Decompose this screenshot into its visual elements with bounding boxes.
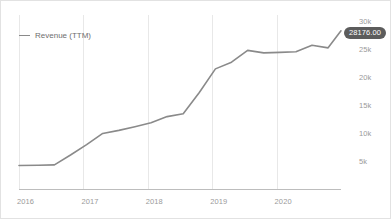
y-tick-20k: 20k xyxy=(359,73,371,82)
value-badge-tooltip: 28176.00 xyxy=(344,27,386,39)
x-tick-2018: 2018 xyxy=(146,197,163,206)
series-lines xyxy=(19,31,341,166)
legend-item-label: Revenue (TTM) xyxy=(35,31,91,40)
y-tick-25k: 25k xyxy=(359,45,371,54)
x-tick-2020: 2020 xyxy=(275,197,292,206)
y-tick-5k: 5k xyxy=(359,157,367,166)
revenue-chart-card: 20162017201820192020 5k10k15k20k25k30k R… xyxy=(0,0,391,219)
series-line-revenue[interactable] xyxy=(19,31,341,166)
y-tick-15k: 15k xyxy=(359,101,371,110)
x-tick-2017: 2017 xyxy=(81,197,98,206)
y-tick-10k: 10k xyxy=(359,129,371,138)
chart-legend[interactable]: Revenue (TTM) xyxy=(19,31,91,40)
value-badge-text: 28176.00 xyxy=(349,29,381,37)
x-tick-2016: 2016 xyxy=(17,197,34,206)
legend-line-swatch xyxy=(19,35,30,36)
x-tick-2019: 2019 xyxy=(210,197,227,206)
y-tick-30k: 30k xyxy=(359,17,371,26)
